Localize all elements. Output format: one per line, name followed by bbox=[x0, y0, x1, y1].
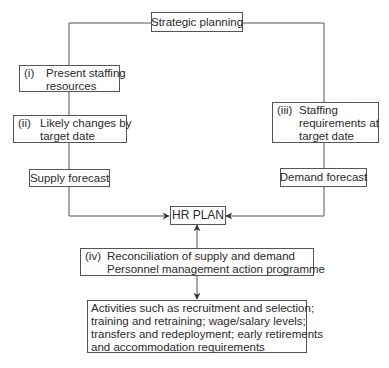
strategic-planning-label: Strategic planning bbox=[151, 16, 243, 29]
box-ii-line-2: target date bbox=[40, 130, 131, 143]
box-iii-line-3: target date bbox=[299, 130, 379, 143]
demand-forecast-box: Demand forecast bbox=[280, 168, 367, 187]
box-iii-line-2: requirements at bbox=[299, 117, 379, 130]
connector-strategic-to-demand bbox=[243, 23, 324, 102]
activities-line-1: Activities such as recruitment and selec… bbox=[91, 302, 303, 315]
hr-plan-box: HR PLAN bbox=[170, 206, 226, 225]
box-iv-line-1: Reconciliation of supply and demand bbox=[107, 250, 325, 263]
box-iv-number: (iv) bbox=[85, 250, 107, 276]
connector-strategic-to-supply bbox=[69, 23, 151, 65]
demand-forecast-label: Demand forecast bbox=[280, 171, 368, 184]
activities-box: Activities such as recruitment and selec… bbox=[87, 300, 307, 353]
box-i-line-2: resources bbox=[46, 80, 126, 93]
strategic-planning-box: Strategic planning bbox=[151, 12, 243, 32]
hr-planning-diagram: Strategic planning (i) Present staffing … bbox=[0, 0, 389, 368]
reconciliation-box: (iv) Reconciliation of supply and demand… bbox=[80, 248, 314, 276]
present-staffing-box: (i) Present staffing resources bbox=[19, 65, 120, 92]
box-ii-line-1: Likely changes by bbox=[40, 117, 131, 130]
arrow-demand-to-hrplan bbox=[226, 186, 324, 216]
hr-plan-label: HR PLAN bbox=[172, 209, 224, 222]
likely-changes-box: (ii) Likely changes by target date bbox=[13, 115, 127, 143]
arrow-supply-to-hrplan bbox=[69, 186, 169, 216]
activities-line-2: training and retraining; wage/salary lev… bbox=[91, 315, 303, 328]
box-iii-line-1: Staffing bbox=[299, 104, 379, 117]
activities-line-3: transfers and redeployment; early retire… bbox=[91, 328, 303, 341]
box-iv-line-2: Personnel management action programme bbox=[107, 263, 325, 276]
supply-forecast-label: Supply forecast bbox=[30, 172, 109, 185]
activities-line-4: and accommodation requirements bbox=[91, 341, 303, 354]
supply-forecast-box: Supply forecast bbox=[29, 169, 110, 187]
box-ii-number: (ii) bbox=[18, 117, 40, 143]
staffing-requirements-box: (iii) Staffing requirements at target da… bbox=[272, 102, 379, 143]
box-i-number: (i) bbox=[24, 67, 46, 93]
box-iii-number: (iii) bbox=[277, 104, 299, 143]
box-i-line-1: Present staffing bbox=[46, 67, 126, 80]
